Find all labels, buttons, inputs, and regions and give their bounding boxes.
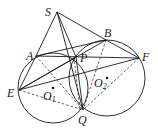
segment-af — [36, 56, 139, 58]
label-q: Q — [78, 113, 87, 127]
center-o2-dot — [106, 77, 109, 80]
segment-eb — [19, 40, 106, 90]
diagram-canvas: S A B P F E Q O1 O2 — [0, 0, 158, 139]
label-s: S — [45, 5, 51, 19]
label-p: P — [79, 51, 88, 65]
center-o1-dot — [52, 87, 55, 90]
segment-bf — [106, 40, 139, 58]
label-o2: O2 — [94, 76, 107, 91]
label-f: F — [141, 50, 150, 64]
label-e: E — [6, 86, 15, 100]
segment-ab — [36, 40, 106, 56]
label-o1: O1 — [43, 89, 56, 104]
label-a: A — [25, 49, 34, 63]
geometry-diagram: S A B P F E Q O1 O2 — [0, 0, 158, 139]
segment-sb — [57, 12, 106, 40]
label-b: B — [104, 26, 112, 40]
segment-ef — [19, 58, 139, 90]
